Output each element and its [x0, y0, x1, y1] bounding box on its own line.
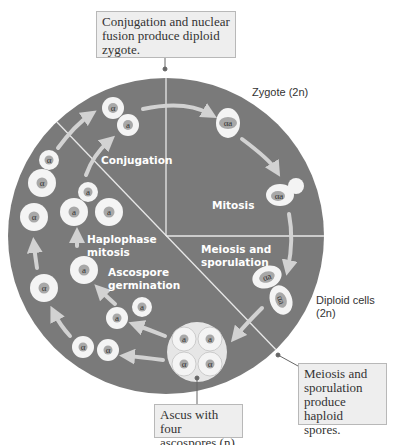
svg-text:α: α	[182, 359, 187, 369]
cell-alpha: α	[102, 97, 124, 119]
svg-text:a: a	[115, 313, 119, 323]
svg-text:α: α	[81, 342, 86, 352]
stage-mitosis: Mitosis	[212, 199, 254, 212]
svg-text:α: α	[32, 212, 37, 222]
svg-text:αa: αa	[275, 191, 284, 201]
cell-a: a	[78, 182, 98, 202]
svg-text:α: α	[42, 283, 47, 293]
cell-a: a	[132, 297, 152, 317]
label-diploid-cells: Diploid cells (2n)	[316, 294, 376, 320]
svg-text:a: a	[208, 334, 212, 344]
svg-text:a: a	[86, 187, 90, 197]
callout-conjugation: Conjugation and nuclear fusion produce d…	[96, 11, 236, 58]
svg-text:a: a	[107, 207, 111, 217]
cell-a: a	[70, 256, 98, 284]
svg-text:a: a	[140, 302, 144, 312]
cell-alpha: α	[20, 203, 48, 231]
ascus: a a α α	[167, 322, 227, 382]
svg-text:α: α	[47, 155, 52, 165]
cell-alpha: α	[72, 336, 94, 358]
stage-ascospore-germination: Ascospore germination	[108, 266, 180, 292]
stage-haplophase-mitosis: Haplophase mitosis	[87, 233, 151, 259]
ascospore-alpha: α	[172, 352, 196, 376]
cell-a: a	[117, 114, 139, 136]
svg-text:a: a	[126, 120, 130, 130]
cell-alpha: α	[97, 339, 119, 361]
ascospore-a: a	[198, 327, 222, 351]
svg-text:α: α	[208, 359, 213, 369]
cell-alpha: α	[28, 169, 56, 197]
zygote-cell: αa	[216, 108, 240, 138]
label-zygote: Zygote (2n)	[252, 86, 308, 99]
cell-alpha: α	[30, 274, 58, 302]
cell-a: a	[106, 307, 128, 329]
cell-a: a	[60, 198, 88, 226]
svg-text:α: α	[111, 103, 116, 113]
ascospore-alpha: α	[198, 352, 222, 376]
cell-alpha: α	[39, 150, 59, 170]
ascospore-a: a	[172, 327, 196, 351]
stage-meiosis: Meiosis and sporulation	[201, 243, 281, 269]
stage-conjugation: Conjugation	[101, 154, 172, 167]
svg-text:a: a	[82, 265, 86, 275]
svg-text:α: α	[106, 345, 111, 355]
svg-text:a: a	[182, 334, 186, 344]
svg-text:a: a	[72, 207, 76, 217]
cell-a: a	[95, 198, 123, 226]
callout-meiosis: Meiosis and sporulation produce haploid …	[298, 363, 387, 425]
svg-text:αa: αa	[224, 118, 233, 128]
callout-ascus: Ascus with four ascospores (n)	[154, 404, 243, 438]
svg-text:α: α	[40, 178, 45, 188]
